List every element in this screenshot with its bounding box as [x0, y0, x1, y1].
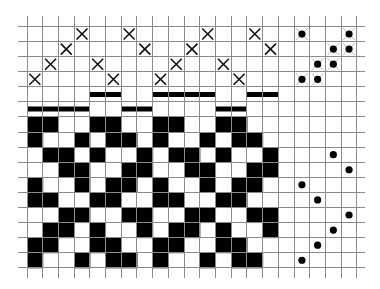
drawdown-cell	[90, 117, 106, 133]
drawdown-cell	[90, 238, 106, 254]
treadling-dot-icon	[314, 196, 321, 203]
drawdown-cell	[43, 238, 59, 254]
tieup-dot-icon	[345, 30, 352, 37]
drawdown-cell	[27, 132, 43, 148]
drawdown-cell	[247, 162, 263, 178]
threading-x-icon	[139, 44, 150, 55]
drawdown-cell	[200, 207, 216, 223]
drawdown-cell	[74, 177, 90, 193]
drawdown-cell	[153, 192, 169, 208]
treadling-dot-icon	[298, 181, 305, 188]
drawdown-cell	[106, 238, 122, 254]
treadling-dot-icon	[298, 257, 305, 264]
threading-x-icon	[171, 59, 182, 70]
drawdown-cell	[58, 162, 74, 178]
drawdown-cell	[43, 192, 59, 208]
drawdown-cell	[137, 207, 153, 223]
tieup-dot-icon	[298, 30, 305, 37]
drawdown-cell	[153, 132, 169, 148]
drawdown-cell	[106, 132, 122, 148]
drawdown-cell	[184, 162, 200, 178]
drawdown-cell	[263, 162, 279, 178]
drawdown-cell	[43, 223, 59, 239]
drawdown-cell	[200, 177, 216, 193]
drawdown-cell	[231, 253, 247, 269]
drawdown-cell	[137, 162, 153, 178]
drawdown-cell	[231, 192, 247, 208]
drawdown-cell	[106, 177, 122, 193]
threading-x-icon	[61, 44, 72, 55]
drawdown-cell	[121, 132, 137, 148]
drawdown-cell	[58, 147, 74, 163]
drawdown-cell	[231, 177, 247, 193]
drawdown-cell	[121, 207, 137, 223]
drawdown-cell	[168, 238, 184, 254]
drawdown-cell	[200, 162, 216, 178]
drawdown-cell	[74, 207, 90, 223]
drawdown-cell	[216, 192, 232, 208]
drawdown-cell	[153, 253, 169, 269]
drawdown-cell	[27, 253, 43, 269]
drawdown-cell	[90, 223, 106, 239]
drawdown-cell	[27, 192, 43, 208]
drawdown-cell	[263, 207, 279, 223]
threading-x-icon	[45, 59, 56, 70]
threading-x-icon	[76, 29, 87, 40]
threading-x-icon	[108, 74, 119, 85]
drawdown-cell	[247, 253, 263, 269]
drawdown-cell	[74, 162, 90, 178]
drawdown-cell	[106, 117, 122, 133]
threading-x-icon	[124, 29, 135, 40]
drawdown-cell	[184, 223, 200, 239]
drawdown-cell	[200, 253, 216, 269]
drawdown-cell	[43, 117, 59, 133]
tieup-dot-icon	[330, 61, 337, 68]
threading-x-icon	[92, 59, 103, 70]
drawdown-cell	[216, 117, 232, 133]
drawdown-cell	[231, 238, 247, 254]
drawdown-cell	[43, 147, 59, 163]
drawdown-cell	[263, 147, 279, 163]
drawdown-cell	[168, 117, 184, 133]
tieup-dot-icon	[345, 46, 352, 53]
tieup-dot-icon	[330, 46, 337, 53]
drawdown-cell	[168, 147, 184, 163]
drawdown-cell	[231, 132, 247, 148]
treadling-dot-icon	[330, 226, 337, 233]
drawdown-cell	[184, 207, 200, 223]
threading-x-icon	[155, 74, 166, 85]
drawdown-cell	[121, 253, 137, 269]
tieup-dot-icon	[314, 61, 321, 68]
drawdown-cell	[153, 177, 169, 193]
drawdown-cell	[90, 147, 106, 163]
threading-x-icon	[29, 74, 40, 85]
drawdown-cell	[216, 223, 232, 239]
treadling-dot-icon	[345, 166, 352, 173]
drawdown-cell	[216, 238, 232, 254]
treadling-dot-icon	[330, 151, 337, 158]
drawdown-cell	[168, 223, 184, 239]
drawdown-cell	[153, 238, 169, 254]
tieup-dot-icon	[314, 76, 321, 83]
drawdown-cell	[58, 223, 74, 239]
drawdown-cell	[27, 117, 43, 133]
drawdown-cell	[27, 177, 43, 193]
drawdown-cell	[216, 147, 232, 163]
drawdown-cell	[247, 177, 263, 193]
drawdown-cell	[106, 192, 122, 208]
drawdown-cell	[74, 253, 90, 269]
drawdown-cell	[184, 147, 200, 163]
threading-x-icon	[234, 74, 245, 85]
threading-x-icon	[202, 29, 213, 40]
weaving-draft	[0, 0, 380, 289]
threading-x-icon	[218, 59, 229, 70]
drawdown-cell	[168, 192, 184, 208]
threading-x-icon	[249, 29, 260, 40]
tieup-dot-icon	[298, 76, 305, 83]
drawdown-cell	[200, 132, 216, 148]
threading-x-icon	[186, 44, 197, 55]
drawdown-cell	[90, 192, 106, 208]
drawdown-cell	[27, 238, 43, 254]
treadling-dot-icon	[314, 242, 321, 249]
drawdown-cell	[263, 223, 279, 239]
